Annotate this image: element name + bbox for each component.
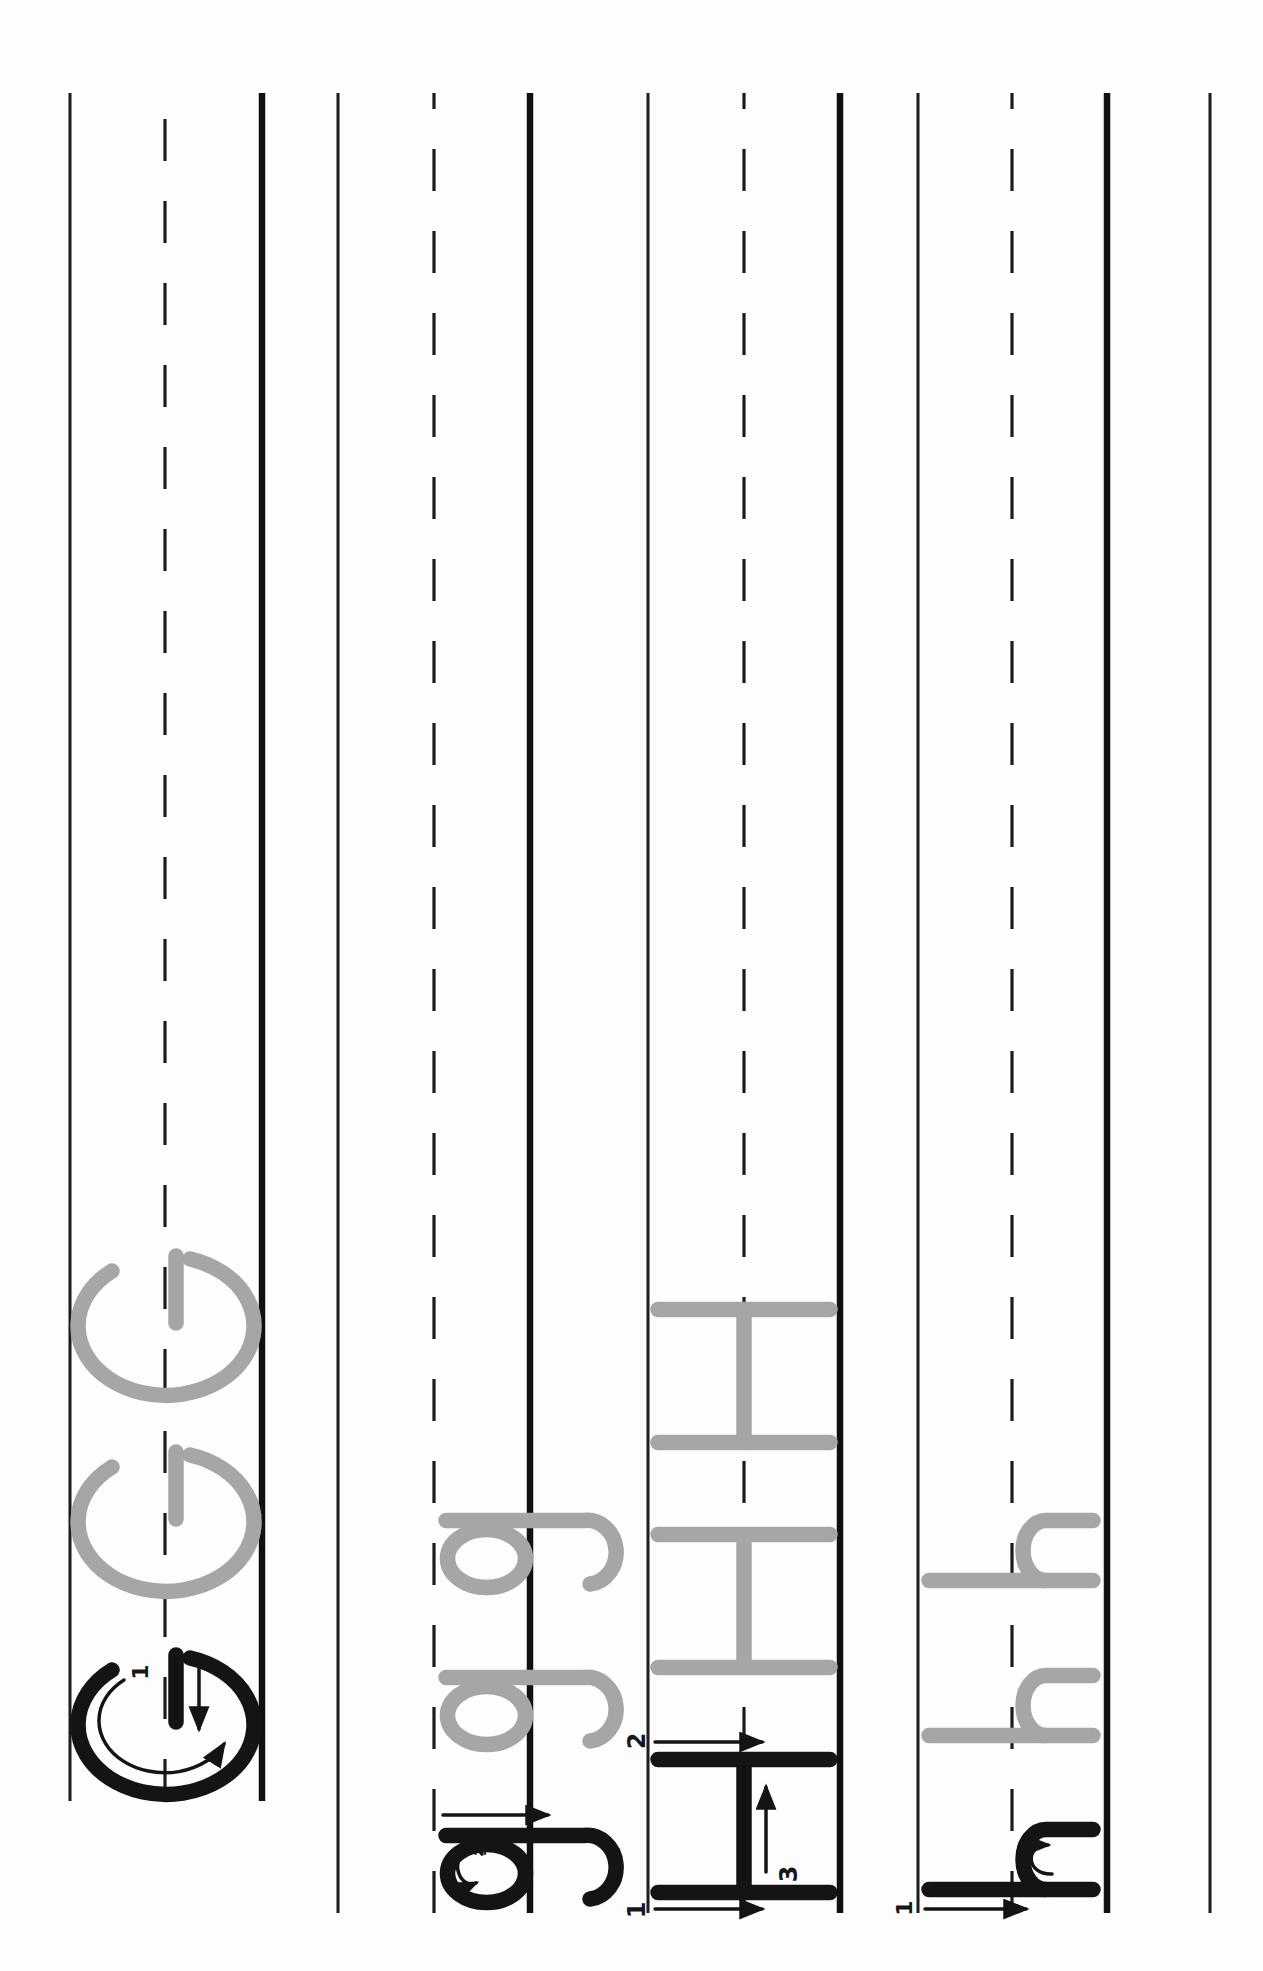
stroke-number-H-1: 1 [623, 1902, 651, 1919]
practice-row-lowercase-g: 1 [338, 93, 616, 1913]
stroke-direction-arrow-G-curve [99, 1680, 224, 1773]
practice-row-lowercase-h: 1 [892, 93, 1107, 1916]
worksheet-canvas: 1 1 [0, 0, 1263, 1971]
stroke-direction-arrow-h-arch [1031, 1845, 1052, 1874]
rotated-page-content: 1 1 [0, 0, 1263, 1971]
stroke-number-G-1: 1 [128, 1664, 153, 1679]
trace-letter-H-2 [658, 1310, 830, 1443]
practice-row-uppercase-H: 1 2 3 [623, 93, 840, 1918]
stroke-number-h-1: 1 [892, 1900, 917, 1915]
trace-letter-H-1 [658, 1535, 830, 1668]
stroke-number-H-3: 3 [775, 1866, 803, 1883]
stroke-number-H-2: 2 [623, 1733, 651, 1750]
worksheet-page: 1 1 [0, 0, 1263, 1971]
practice-row-uppercase-G: 1 [70, 93, 262, 1801]
example-letter-H [658, 1760, 830, 1893]
